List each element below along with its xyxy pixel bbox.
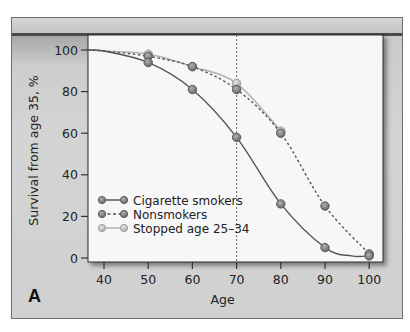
data-point-marker (188, 85, 196, 93)
y-tick-label: 40 (62, 167, 78, 182)
y-axis-label: Survival from age 35, % (26, 75, 41, 226)
data-point-marker (188, 62, 196, 70)
data-point-marker (144, 58, 152, 66)
legend-label: Stopped age 25–34 (133, 222, 249, 236)
legend-marker-icon (98, 210, 105, 217)
data-point-marker (321, 243, 329, 251)
y-tick-label: 80 (62, 84, 78, 99)
legend-marker-icon (120, 224, 127, 231)
data-point-marker (232, 133, 240, 141)
x-tick-label: 80 (273, 272, 289, 287)
data-point-marker (277, 200, 285, 208)
y-tick-label: 60 (62, 126, 78, 141)
legend-marker-icon (98, 196, 105, 203)
data-point-marker (277, 129, 285, 137)
data-point-marker (321, 202, 329, 210)
y-tick-label: 100 (54, 43, 78, 58)
y-axis: 020406080100 (54, 43, 88, 266)
x-tick-label: 50 (140, 272, 156, 287)
x-axis: 405060708090100 (96, 262, 381, 287)
x-tick-label: 40 (96, 272, 112, 287)
survival-chart: 020406080100405060708090100AgeSurvival f… (0, 0, 410, 332)
x-axis-label: Age (210, 292, 234, 307)
x-tick-label: 70 (229, 272, 245, 287)
panel-label: A (28, 286, 41, 307)
legend-marker-icon (98, 224, 105, 231)
x-tick-label: 90 (317, 272, 333, 287)
legend-label: Cigarette smokers (133, 194, 243, 208)
legend-marker-icon (120, 196, 127, 203)
legend-marker-icon (120, 210, 127, 217)
legend-label: Nonsmokers (133, 208, 207, 222)
y-tick-label: 20 (62, 209, 78, 224)
x-tick-label: 60 (184, 272, 200, 287)
y-tick-label: 0 (70, 251, 78, 266)
x-tick-label: 100 (357, 272, 381, 287)
data-point-marker (232, 85, 240, 93)
data-point-marker (365, 252, 373, 260)
